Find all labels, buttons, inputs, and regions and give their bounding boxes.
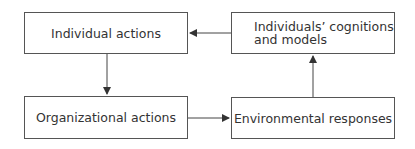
node-individuals-cognitions-and-models: Individuals’ cognitions and models [231,12,395,54]
node-individual-actions: Individual actions [24,12,188,54]
node-label-line2: and models [254,33,394,46]
node-label: Environmental responses [234,112,392,125]
node-label: Individual actions [51,27,161,40]
node-environmental-responses: Environmental responses [231,97,395,139]
node-organizational-actions: Organizational actions [24,96,188,139]
node-label: Organizational actions [36,111,176,124]
